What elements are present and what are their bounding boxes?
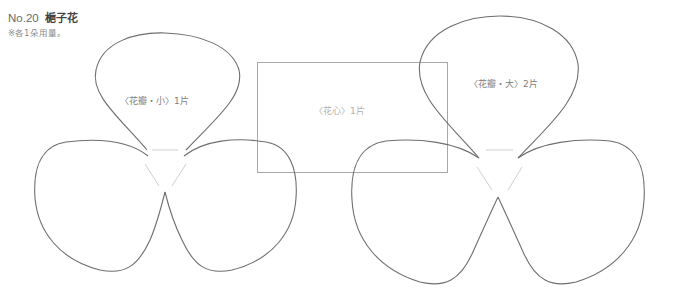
large-petal-label: 〈花瓣・大〉2片 [469, 79, 538, 90]
pattern-drawing [0, 0, 680, 301]
center-piece-outline [258, 63, 448, 173]
large-petal-shape [352, 16, 645, 284]
center-piece-label: 〈花心〉1片 [314, 106, 365, 117]
small-petal-label: 〈花瓣・小〉1片 [120, 96, 189, 107]
